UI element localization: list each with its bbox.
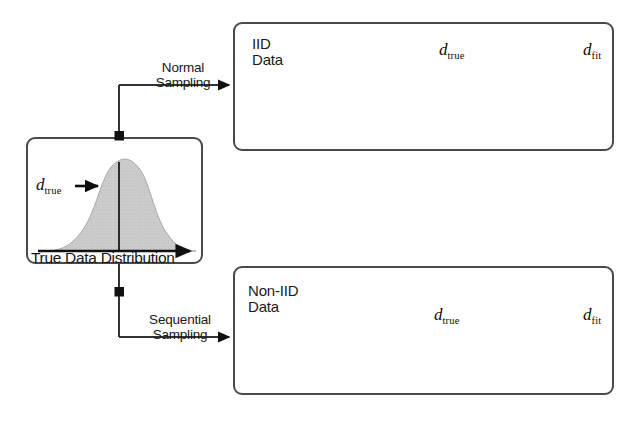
true-distribution-axis-label: True Data Distribution — [31, 249, 175, 267]
true-distribution-curve — [38, 159, 196, 251]
connector-node-bottom — [115, 287, 125, 297]
connector-node-top — [115, 131, 125, 141]
iid-dtrue-subscript: true — [448, 50, 465, 61]
iid-data-label: IID Data — [252, 36, 283, 68]
noniid-dfit-subscript: fit — [592, 315, 602, 326]
proper-fitting-label: Proper- fitting — [392, 84, 437, 112]
over-fitting-label: Over- fitting — [389, 322, 434, 350]
iid-dtrue-label: dtrue — [439, 40, 465, 61]
iid-dfit-label: dfit — [583, 40, 601, 61]
non-iid-data-label: Non-IID Data — [248, 283, 298, 315]
diagram-canvas: True Data Distribution dtrue Normal Samp… — [0, 0, 626, 424]
edge-label-normal-sampling: Normal Sampling — [140, 61, 226, 90]
edge-label-sequential-sampling: Sequential Sampling — [130, 313, 230, 342]
iid-dfit-subscript: fit — [592, 50, 602, 61]
source-dtrue-subscript: true — [45, 185, 62, 196]
noniid-dfit-label: dfit — [583, 305, 601, 326]
noniid-dtrue-label: dtrue — [434, 305, 460, 326]
noniid-dtrue-subscript: true — [443, 315, 460, 326]
source-dtrue-label: dtrue — [36, 175, 62, 196]
